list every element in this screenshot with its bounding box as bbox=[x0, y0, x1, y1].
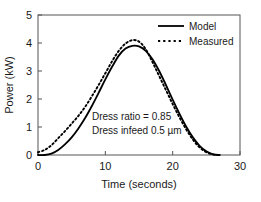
y-axis-tick-label: 3 bbox=[26, 65, 32, 77]
x-axis-tick-label: 20 bbox=[167, 160, 179, 172]
legend-label-measured: Measured bbox=[189, 36, 233, 47]
x-axis-tick-label: 0 bbox=[35, 160, 41, 172]
y-axis-title: Power (kW) bbox=[3, 56, 15, 113]
x-axis-tick-label: 30 bbox=[234, 160, 246, 172]
y-axis-tick-label: 5 bbox=[26, 9, 32, 21]
y-axis-tick-label: 4 bbox=[26, 37, 32, 49]
series-line-model bbox=[38, 46, 220, 156]
y-axis-tick-label: 0 bbox=[26, 149, 32, 161]
x-axis-tick-label: 10 bbox=[99, 160, 111, 172]
chart-annotation-2: Dress infeed 0.5 µm bbox=[92, 125, 182, 136]
x-axis-title: Time (seconds) bbox=[101, 178, 176, 190]
power-vs-time-chart: 0123450102030Time (seconds)Power (kW)Mod… bbox=[0, 0, 261, 202]
chart-figure: 0123450102030Time (seconds)Power (kW)Mod… bbox=[0, 0, 261, 202]
y-axis-tick-label: 2 bbox=[26, 93, 32, 105]
chart-annotation-1: Dress ratio = 0.85 bbox=[92, 111, 172, 122]
y-axis-tick-label: 1 bbox=[26, 121, 32, 133]
legend-label-model: Model bbox=[189, 21, 216, 32]
